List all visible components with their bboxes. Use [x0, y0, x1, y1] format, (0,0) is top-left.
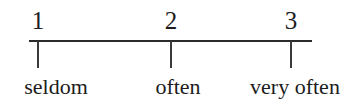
scale-number-3: 3	[271, 7, 311, 35]
scale-number-1: 1	[18, 7, 58, 35]
scale-label-very-often: very often	[234, 74, 356, 100]
scale-label-seldom: seldom	[0, 74, 112, 100]
scale-tick-2	[170, 41, 172, 68]
scale-number-2: 2	[151, 7, 191, 35]
rating-scale-diagram: 1 2 3 seldom often very often	[0, 0, 356, 107]
scale-label-often: often	[126, 74, 230, 100]
scale-tick-3	[290, 41, 292, 68]
scale-tick-1	[37, 41, 39, 68]
